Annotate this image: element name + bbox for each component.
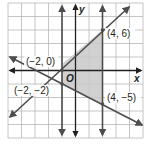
x-axis-label: x (133, 73, 140, 84)
point-label: (−2, 0) (26, 56, 55, 67)
y-axis-label: y (78, 4, 85, 15)
point-label: (−2, −2) (14, 85, 49, 96)
vertex-point (101, 102, 105, 106)
point-label: (4, 6) (107, 28, 130, 39)
coordinate-graph: (−2, 0) (4, 6) (−2, −2) (4, −5) O x y (0, 0, 149, 144)
vertex-point (101, 28, 105, 32)
shaded-region (62, 30, 103, 104)
origin-label: O (66, 73, 74, 84)
vertex-point (60, 69, 64, 73)
vertex-point (60, 82, 64, 86)
point-label: (4, −5) (107, 92, 136, 103)
